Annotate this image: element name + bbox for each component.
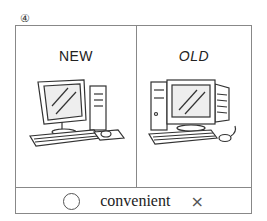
item-number: ④	[20, 12, 30, 25]
crt-monitor-computer-icon	[145, 76, 245, 156]
circle-symbol-icon	[63, 193, 80, 210]
panel-label-old: OLD	[137, 48, 251, 64]
cross-symbol-icon: ×	[190, 192, 203, 211]
panel-new: NEW	[16, 26, 137, 187]
panel-label-new: NEW	[16, 48, 136, 64]
rating-word: convenient	[100, 192, 170, 210]
comparison-frame: NEW OLD	[15, 25, 252, 214]
flat-monitor-computer-icon	[24, 76, 128, 156]
panel-old: OLD	[137, 26, 251, 187]
rating-row: convenient ×	[16, 187, 251, 214]
